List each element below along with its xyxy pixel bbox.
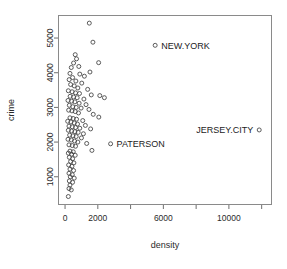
data-point <box>89 127 93 131</box>
y-tick-label: 1000 <box>45 167 55 186</box>
y-tick-label: 4000 <box>45 63 55 82</box>
data-point <box>97 115 101 119</box>
y-tick-label: 5000 <box>45 28 55 47</box>
data-point <box>83 123 87 127</box>
data-point <box>72 61 76 65</box>
data-point <box>81 119 85 123</box>
data-point <box>153 43 157 47</box>
y-tick-label: 2000 <box>45 132 55 151</box>
x-axis-title: density <box>151 240 180 250</box>
data-point <box>74 79 78 83</box>
data-point <box>97 61 101 65</box>
x-tick-label: 6000 <box>154 213 173 223</box>
y-tick-label: 3000 <box>45 98 55 117</box>
data-point <box>72 169 76 173</box>
data-point <box>98 94 102 98</box>
data-point <box>76 86 80 90</box>
data-point <box>77 64 81 68</box>
data-point <box>87 21 91 25</box>
x-tick-label: 10000 <box>217 213 241 223</box>
data-point <box>87 107 91 111</box>
data-point <box>79 106 83 110</box>
data-point <box>78 126 82 130</box>
data-point <box>77 101 81 105</box>
data-point <box>79 136 83 140</box>
data-point <box>102 96 106 100</box>
x-tick-label: 0 <box>63 213 68 223</box>
data-point <box>67 78 71 82</box>
x-axis-ticks: 02000600010000 <box>63 205 262 223</box>
data-point <box>88 70 92 74</box>
data-point <box>80 81 84 85</box>
point-label: JERSEY.CITY <box>196 125 253 135</box>
point-label: PATERSON <box>117 139 165 149</box>
chart-canvas: 02000600010000 10002000300040005000 NEW.… <box>0 0 287 269</box>
scatter-plot-figure: 02000600010000 10002000300040005000 NEW.… <box>0 0 287 269</box>
y-axis-title: crime <box>6 99 16 121</box>
data-point <box>89 93 93 97</box>
data-point <box>257 128 261 132</box>
data-point <box>81 132 85 136</box>
data-point <box>82 97 86 101</box>
data-point <box>72 176 76 180</box>
data-point <box>82 74 86 78</box>
data-point <box>77 92 81 96</box>
data-point <box>90 148 94 152</box>
data-point <box>75 57 79 61</box>
y-axis-ticks: 10002000300040005000 <box>45 28 59 186</box>
data-point <box>84 103 88 107</box>
data-point <box>85 141 89 145</box>
data-point <box>78 72 82 76</box>
data-point <box>68 71 72 75</box>
data-point <box>86 87 90 91</box>
point-annotations: NEW.YORKJERSEY.CITYPATERSON <box>117 41 254 149</box>
data-point <box>66 195 70 199</box>
data-point <box>73 53 77 57</box>
data-point <box>69 66 73 70</box>
data-point <box>91 112 95 116</box>
data-point <box>91 40 95 44</box>
x-tick-label: 2000 <box>88 213 107 223</box>
data-point <box>109 142 113 146</box>
point-label: NEW.YORK <box>161 41 210 51</box>
